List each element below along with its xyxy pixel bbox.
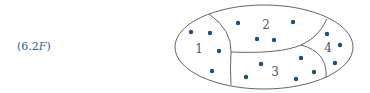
point-dot xyxy=(236,21,240,25)
point-dot xyxy=(255,37,259,41)
point-dot xyxy=(294,77,298,81)
region-label-2: 2 xyxy=(262,18,270,32)
point-dot xyxy=(291,20,295,24)
point-dot xyxy=(217,49,221,53)
partition-diagram: 1234 xyxy=(0,0,370,93)
point-dot xyxy=(210,69,214,73)
point-dot xyxy=(338,43,342,47)
point-dot xyxy=(325,32,329,36)
point-dot xyxy=(189,30,193,34)
point-dot xyxy=(244,75,248,79)
region-label-3: 3 xyxy=(271,65,279,79)
region-labels-group: 1234 xyxy=(195,18,332,79)
region-label-4: 4 xyxy=(324,41,332,55)
point-dot xyxy=(333,61,337,65)
point-dot xyxy=(208,31,212,35)
divider-region-2-3 xyxy=(231,19,327,52)
point-dot xyxy=(299,56,303,60)
point-dot xyxy=(272,38,276,42)
point-dot xyxy=(259,62,263,66)
region-label-1: 1 xyxy=(195,42,203,56)
point-dot xyxy=(312,70,316,74)
